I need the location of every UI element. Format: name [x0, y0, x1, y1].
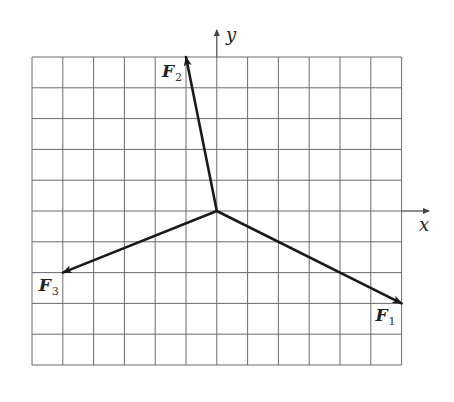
force-label-f1: F	[375, 305, 390, 325]
force-label-f3: F	[38, 275, 53, 295]
force-label-subscript-1: 1	[389, 315, 396, 328]
force-vector-f2	[186, 57, 217, 211]
force-label-f2: F	[161, 61, 176, 81]
force-label-subscript-3: 3	[52, 285, 59, 298]
x-axis-label: x	[419, 214, 429, 235]
vector-diagram-canvas: yxF1F2F3	[0, 0, 454, 402]
force-diagram: yxF1F2F3	[0, 0, 454, 402]
force-label-subscript-2: 2	[175, 71, 182, 84]
y-axis-label: y	[225, 24, 237, 45]
